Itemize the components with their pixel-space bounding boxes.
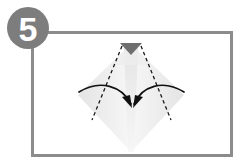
step-number-label: 5	[19, 10, 38, 48]
origami-step-diagram: 5	[0, 0, 244, 168]
diagram-canvas: 5	[0, 0, 244, 168]
